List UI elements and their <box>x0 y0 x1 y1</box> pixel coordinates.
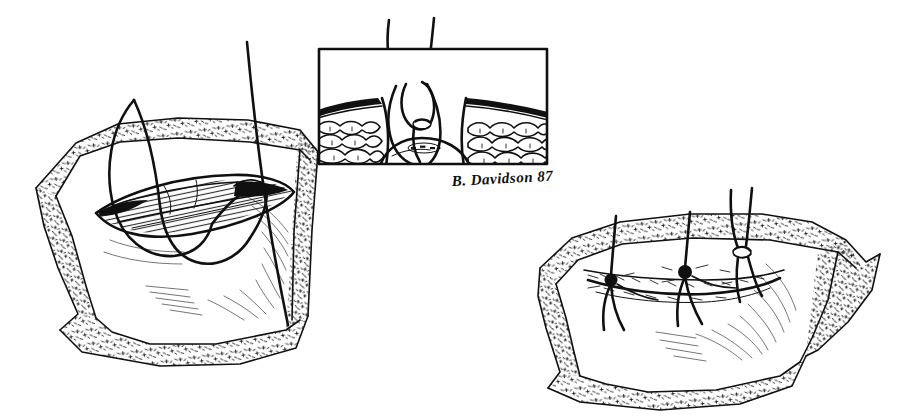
illustration-figure: B. Davidson 87 <box>0 0 897 417</box>
illustration-canvas: B. Davidson 87 <box>0 0 897 417</box>
suture-crossing-knot <box>413 119 431 129</box>
